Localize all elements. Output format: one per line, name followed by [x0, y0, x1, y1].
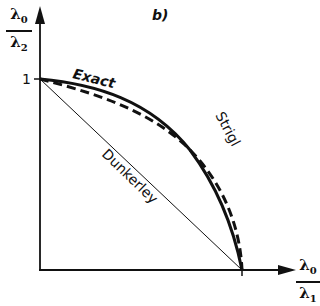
x-label-fraction-bar	[296, 281, 320, 283]
y-label-numerator: λ	[10, 5, 21, 23]
y-label-denominator: λ	[10, 33, 21, 51]
y-axis-arrow-icon	[35, 6, 45, 24]
y-label-denominator-sub: 2	[21, 42, 28, 53]
y-tick-label-1: 1	[22, 71, 31, 87]
dunkerley-label: Dunkerley	[99, 146, 161, 207]
x-axis-arrow-icon	[278, 265, 296, 275]
strigl-label: Strigl	[212, 109, 243, 149]
x-label-denominator-sub: 1	[310, 293, 317, 304]
y-label-numerator-sub: 0	[21, 14, 28, 25]
x-label-numerator: λ	[299, 256, 310, 274]
y-label-fraction-bar	[6, 30, 32, 32]
x-axis-label: λ0 λ1	[296, 257, 320, 306]
panel-label: b)	[152, 7, 168, 23]
x-label-numerator-sub: 0	[310, 265, 317, 276]
y-axis-label: λ0 λ2	[6, 6, 32, 56]
x-label-denominator: λ	[299, 284, 310, 302]
